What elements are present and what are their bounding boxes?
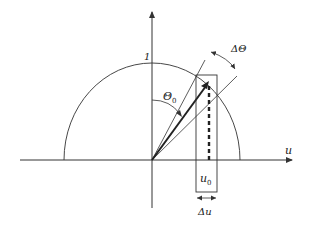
diagram-canvas: 1 Θ0 ΔΘ u u0 Δu <box>0 0 309 226</box>
delta-theta-arc <box>211 52 235 69</box>
theta0-arrowhead <box>176 110 182 117</box>
direction-vector <box>152 86 206 160</box>
theta0-label: Θ0 <box>163 90 177 105</box>
delta-theta-label: ΔΘ <box>230 43 246 54</box>
unit-tick-label: 1 <box>144 51 150 62</box>
u-axis-label: u <box>285 144 292 157</box>
angle-bound-lower <box>152 76 237 160</box>
delta-u-label: Δu <box>197 206 212 217</box>
u0-label: u0 <box>200 172 212 187</box>
